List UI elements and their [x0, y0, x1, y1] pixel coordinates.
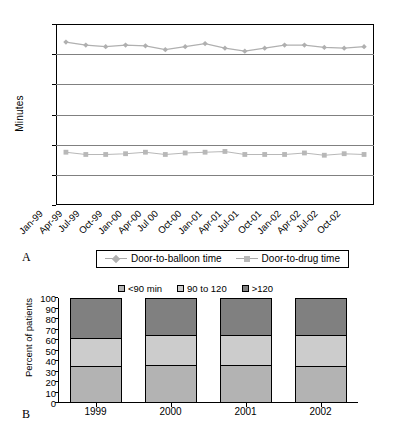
panel-a-plot-area: 020406080100120 — [56, 24, 374, 205]
data-point-marker — [322, 45, 327, 50]
data-point-marker — [322, 153, 327, 158]
diamond-marker-icon — [105, 255, 127, 263]
panel-b-y-axis — [58, 298, 59, 403]
y-tick-label: 80 — [30, 314, 56, 325]
panel-a-legend: Door-to-balloon time Door-to-drug time — [96, 250, 349, 268]
legend-label: <90 min — [128, 283, 162, 294]
legend-item-door-to-balloon: Door-to-balloon time — [105, 253, 222, 264]
panel-a-series-layer — [56, 24, 374, 205]
y-tick-label: 50 — [30, 345, 56, 356]
y-tick-mark — [55, 381, 58, 382]
data-point-marker — [282, 42, 287, 47]
data-point-marker — [143, 150, 148, 155]
stacked-bar — [145, 298, 197, 403]
x-tick-label: 1999 — [56, 406, 136, 417]
bar-segment — [295, 335, 347, 367]
y-tick-label: 90 — [30, 303, 56, 314]
y-tick-label: 60 — [30, 335, 56, 346]
data-point-marker — [143, 43, 148, 48]
y-tick-mark — [55, 360, 58, 361]
data-point-marker — [341, 45, 346, 50]
data-point-marker — [182, 44, 187, 49]
bar-segment — [70, 298, 122, 338]
panel-b-legend: <90 min90 to 120>120 — [118, 283, 273, 294]
legend-item-2: >120 — [242, 283, 273, 294]
data-point-marker — [123, 42, 128, 47]
y-tick-mark — [55, 308, 58, 309]
data-point-marker — [103, 44, 108, 49]
legend-item-1: 90 to 120 — [177, 283, 227, 294]
data-point-marker — [163, 152, 168, 157]
panel-a-letter: A — [22, 250, 31, 265]
y-tick-label: 70 — [30, 324, 56, 335]
data-point-marker — [163, 47, 168, 52]
series-line-1 — [66, 151, 364, 155]
x-tick-label: 2002 — [281, 406, 361, 417]
data-point-marker — [203, 150, 208, 155]
bar-segment — [295, 298, 347, 335]
data-point-marker — [262, 152, 267, 157]
legend-swatch-icon — [242, 285, 249, 292]
legend-label: >120 — [252, 283, 273, 294]
bar-segment — [145, 298, 197, 335]
data-point-marker — [83, 42, 88, 47]
panel-a-y-axis-label: Minutes — [14, 79, 25, 149]
data-point-marker — [183, 151, 188, 156]
y-tick-label: 100 — [30, 293, 56, 304]
y-tick-mark — [55, 392, 58, 393]
series-line-0 — [66, 42, 364, 51]
data-point-marker — [361, 44, 366, 49]
legend-item-0: <90 min — [118, 283, 162, 294]
data-point-marker — [223, 149, 228, 154]
y-tick-label: 40 — [30, 356, 56, 367]
data-point-marker — [103, 152, 108, 157]
x-tick-label: 2001 — [206, 406, 286, 417]
data-point-marker — [64, 150, 69, 155]
square-marker-icon — [236, 255, 258, 263]
panel-a-line-chart: Minutes 020406080100120 Jan-99Apr-99Jul-… — [0, 0, 405, 282]
y-tick-mark — [55, 371, 58, 372]
panel-b-stacked-bar-chart: <90 min90 to 120>120 Percent of patients… — [0, 282, 405, 445]
y-tick-mark — [55, 339, 58, 340]
bar-segment — [220, 298, 272, 335]
legend-label: 90 to 120 — [187, 283, 227, 294]
panel-b-plot-area: 0102030405060708090100 — [58, 298, 358, 403]
bar-segment — [220, 335, 272, 365]
bar-segment — [220, 365, 272, 403]
data-point-marker — [302, 42, 307, 47]
data-point-marker — [362, 152, 367, 157]
bar-segment — [70, 366, 122, 403]
y-tick-mark — [55, 329, 58, 330]
bar-segment — [145, 335, 197, 365]
data-point-marker — [342, 151, 347, 156]
y-tick-mark — [55, 318, 58, 319]
data-point-marker — [222, 45, 227, 50]
data-point-marker — [242, 48, 247, 53]
y-tick-mark — [55, 402, 58, 403]
y-tick-label: 30 — [30, 366, 56, 377]
data-point-marker — [63, 39, 68, 44]
y-tick-label: 10 — [30, 387, 56, 398]
y-tick-mark — [55, 297, 58, 298]
stacked-bar — [70, 298, 122, 403]
stacked-bar — [220, 298, 272, 403]
data-point-marker — [83, 152, 88, 157]
legend-swatch-icon — [118, 285, 125, 292]
data-point-marker — [262, 45, 267, 50]
bar-segment — [145, 365, 197, 403]
x-tick-label: 2000 — [131, 406, 211, 417]
y-tick-mark — [55, 350, 58, 351]
x-tick-label: Oct-02 — [314, 208, 342, 236]
legend-swatch-icon — [177, 285, 184, 292]
legend-label-door-to-balloon: Door-to-balloon time — [131, 253, 222, 264]
data-point-marker — [202, 41, 207, 46]
legend-label-door-to-drug: Door-to-drug time — [262, 253, 340, 264]
stacked-bar — [295, 298, 347, 403]
legend-item-door-to-drug: Door-to-drug time — [236, 253, 340, 264]
bar-segment — [295, 366, 347, 403]
y-tick-mark — [52, 205, 56, 206]
data-point-marker — [123, 151, 128, 156]
data-point-marker — [282, 152, 287, 157]
data-point-marker — [302, 151, 307, 156]
bar-segment — [70, 338, 122, 366]
